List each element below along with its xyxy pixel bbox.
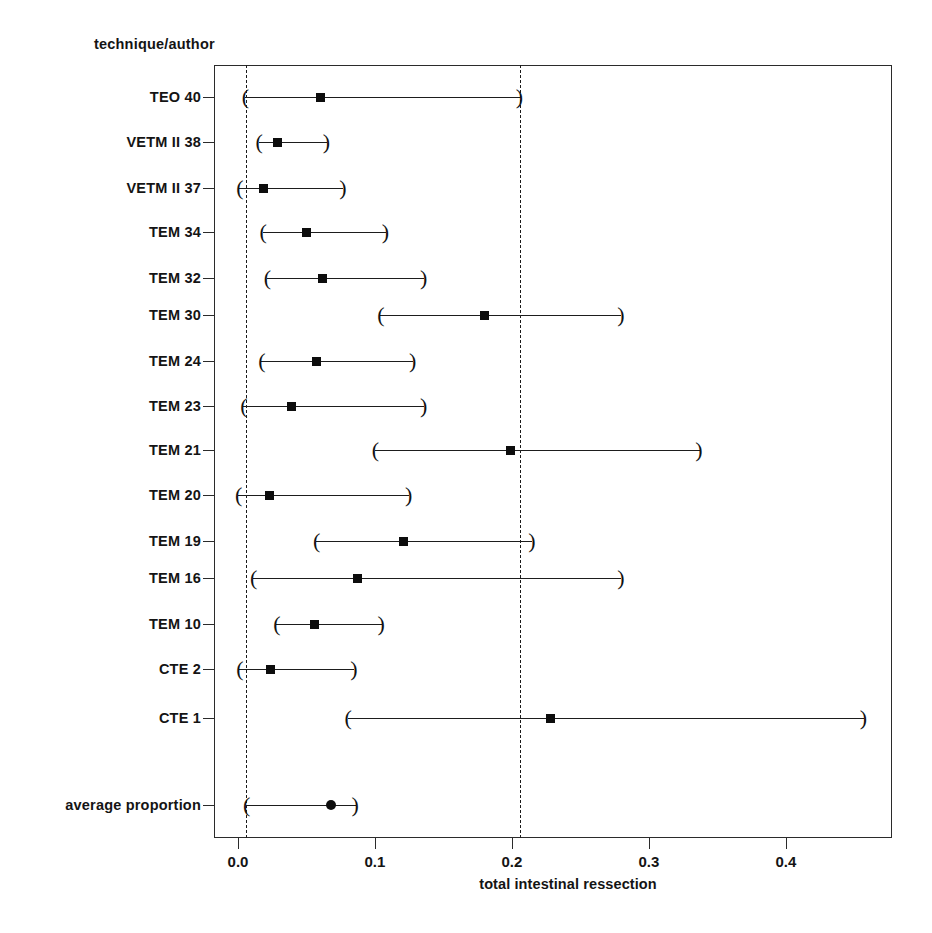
y-axis-tick-label: VETM II 38 xyxy=(126,134,201,150)
confidence-interval-line xyxy=(375,450,700,451)
y-axis-tick xyxy=(203,541,214,542)
x-axis-tick xyxy=(375,838,376,849)
y-axis-tick xyxy=(203,278,214,279)
confidence-interval-line xyxy=(243,406,424,407)
x-axis-tick-label: 0.1 xyxy=(365,853,386,870)
y-axis-tick-label: TEM 24 xyxy=(149,353,201,369)
confidence-interval-line xyxy=(259,142,327,143)
x-axis-tick-label: 0.0 xyxy=(228,853,249,870)
confidence-interval-line xyxy=(380,315,621,316)
x-axis-tick xyxy=(238,838,239,849)
point-estimate-marker xyxy=(259,184,268,193)
y-axis-tick-label: TEM 21 xyxy=(149,442,201,458)
y-axis-tick xyxy=(203,232,214,233)
reference-line-1 xyxy=(246,65,247,838)
y-axis-tick xyxy=(203,406,214,407)
y-axis-tick xyxy=(203,450,214,451)
x-axis-tick xyxy=(786,838,787,849)
y-axis-tick xyxy=(203,805,214,806)
confidence-interval-line xyxy=(245,97,520,98)
y-axis-tick xyxy=(203,361,214,362)
confidence-interval-line xyxy=(238,495,409,496)
summary-marker xyxy=(326,800,336,810)
y-axis-tick xyxy=(203,315,214,316)
x-axis-tick xyxy=(512,838,513,849)
point-estimate-marker xyxy=(353,574,362,583)
y-axis-tick xyxy=(203,718,214,719)
confidence-interval-line xyxy=(263,232,386,233)
y-axis-tick xyxy=(203,188,214,189)
y-axis-tick-label: CTE 2 xyxy=(159,661,201,677)
point-estimate-marker xyxy=(480,311,489,320)
y-axis-title: technique/author xyxy=(94,36,215,52)
x-axis-tick xyxy=(649,838,650,849)
y-axis-tick-label: TEM 16 xyxy=(149,570,201,586)
y-axis-tick xyxy=(203,97,214,98)
y-axis-tick xyxy=(203,142,214,143)
y-axis-tick-label: TEM 34 xyxy=(149,224,201,240)
y-axis-tick xyxy=(203,495,214,496)
y-axis-tick xyxy=(203,624,214,625)
point-estimate-marker xyxy=(399,537,408,546)
y-axis-tick xyxy=(203,578,214,579)
confidence-interval-line xyxy=(239,188,343,189)
x-axis-tick-label: 0.3 xyxy=(638,853,659,870)
y-axis-tick-label: TEO 40 xyxy=(150,89,201,105)
confidence-interval-line xyxy=(267,278,425,279)
y-axis-tick-label: TEM 23 xyxy=(149,398,201,414)
y-axis-tick-label: TEM 30 xyxy=(149,307,201,323)
confidence-interval-line xyxy=(316,541,532,542)
point-estimate-marker xyxy=(312,357,321,366)
point-estimate-marker xyxy=(265,491,274,500)
y-axis-tick-label: TEM 10 xyxy=(149,616,201,632)
point-estimate-marker xyxy=(273,138,282,147)
point-estimate-marker xyxy=(266,665,275,674)
y-axis-tick xyxy=(203,669,214,670)
y-axis-tick-label: TEM 32 xyxy=(149,270,201,286)
y-axis-tick-label: average proportion xyxy=(65,797,201,813)
confidence-interval-line xyxy=(253,578,621,579)
point-estimate-marker xyxy=(310,620,319,629)
forest-plot-figure: technique/author 0.00.10.20.30.4TEO 40()… xyxy=(0,0,932,933)
y-axis-tick-label: TEM 19 xyxy=(149,533,201,549)
y-axis-tick-label: CTE 1 xyxy=(159,710,201,726)
point-estimate-marker xyxy=(287,402,296,411)
x-axis-tick-label: 0.2 xyxy=(501,853,522,870)
x-axis-title-text: total intestinal ressection xyxy=(479,876,657,892)
y-axis-tick-label: VETM II 37 xyxy=(126,180,201,196)
point-estimate-marker xyxy=(318,274,327,283)
confidence-interval-line xyxy=(261,361,413,362)
point-estimate-marker xyxy=(302,228,311,237)
y-axis-tick-label: TEM 20 xyxy=(149,487,201,503)
point-estimate-marker xyxy=(316,93,325,102)
reference-line-2 xyxy=(520,65,521,838)
point-estimate-marker xyxy=(506,446,515,455)
confidence-interval-line xyxy=(348,718,864,719)
point-estimate-marker xyxy=(546,714,555,723)
x-axis-title: total intestinal ressection xyxy=(0,876,932,892)
confidence-interval-line xyxy=(276,624,381,625)
x-axis-tick-label: 0.4 xyxy=(775,853,796,870)
plot-area: 0.00.10.20.30.4TEO 40()VETM II 38()VETM … xyxy=(214,65,892,838)
confidence-interval-line xyxy=(246,805,356,806)
confidence-interval-line xyxy=(239,669,354,670)
